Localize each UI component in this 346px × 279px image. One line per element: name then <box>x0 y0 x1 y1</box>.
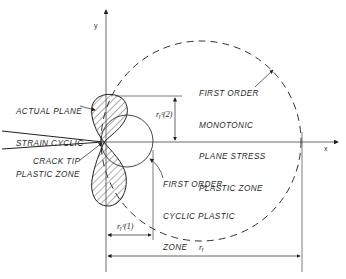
actual-zone-label: ACTUAL PLANE STRAIN CYCLIC PLASTIC ZONE <box>16 86 84 191</box>
y-axis-label: y <box>94 22 98 29</box>
ry-c2-label: rᵧᶜ(2) <box>156 110 172 119</box>
ry-c1-label: rᵧᶜ(1) <box>117 222 133 231</box>
actual-cyclic-plastic-zone <box>92 94 128 206</box>
cyclic-zone-leader <box>150 159 163 178</box>
x-axis-label: x <box>324 145 328 152</box>
crack-tip-label: CRACK TIP <box>33 157 80 168</box>
cyclic-plastic-zone <box>101 115 153 167</box>
ry-label: rᵧ <box>199 243 204 252</box>
